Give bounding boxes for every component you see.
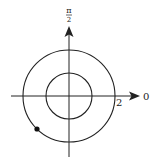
plotted-point [34, 126, 39, 131]
polar-graph: 0 2 π 2 [0, 0, 155, 164]
pi-over-2-numerator: π [66, 6, 71, 15]
radius-tick-label: 2 [116, 97, 122, 108]
pi-over-2-denominator: 2 [67, 16, 71, 24]
angle-zero-label: 0 [143, 91, 149, 102]
